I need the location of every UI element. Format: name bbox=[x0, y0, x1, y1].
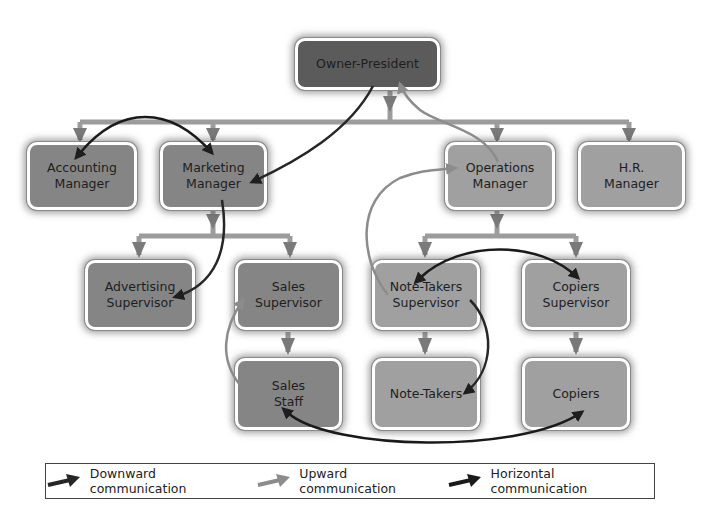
node-operations-manager: Operations Manager bbox=[445, 142, 555, 210]
legend-label-upward: Upward communication bbox=[299, 466, 447, 496]
legend-item-horizontal: Horizontal communication bbox=[447, 466, 654, 496]
legend-item-upward: Upward communication bbox=[256, 466, 447, 496]
node-sales-supervisor: Sales Supervisor bbox=[235, 260, 342, 330]
node-hr-manager: H.R. Manager bbox=[578, 142, 685, 210]
legend-item-downward: Downward communication bbox=[46, 466, 256, 496]
node-accounting-manager: Accounting Manager bbox=[27, 142, 137, 210]
org-chart-diagram: Owner-President Accounting Manager Marke… bbox=[0, 0, 709, 517]
node-copiers-supervisor: Copiers Supervisor bbox=[522, 260, 630, 330]
legend-label-horizontal: Horizontal communication bbox=[491, 466, 654, 496]
node-advertising-supervisor: Advertising Supervisor bbox=[85, 260, 195, 330]
downward-arrow-icon bbox=[46, 474, 82, 488]
horizontal-arrow-icon bbox=[447, 474, 483, 488]
node-note-takers: Note-Takers bbox=[372, 358, 480, 430]
node-copiers: Copiers bbox=[522, 358, 630, 430]
legend: Downward communication Upward communicat… bbox=[45, 463, 655, 499]
node-sales-staff: Sales Staff bbox=[235, 358, 342, 430]
node-owner-president: Owner-President bbox=[295, 38, 440, 90]
node-marketing-manager: Marketing Manager bbox=[160, 142, 267, 210]
legend-label-downward: Downward communication bbox=[90, 466, 256, 496]
node-note-takers-supervisor: Note-Takers Supervisor bbox=[372, 260, 480, 330]
upward-arrow-icon bbox=[256, 474, 292, 488]
